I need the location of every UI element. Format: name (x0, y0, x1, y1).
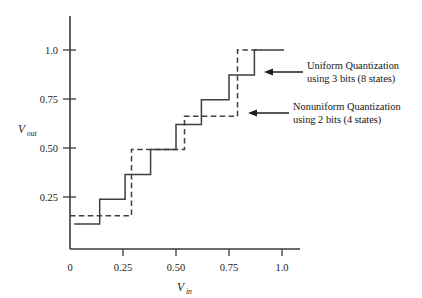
y-axis-label: V (18, 123, 27, 135)
y-axis-label-subscript: out (27, 129, 38, 138)
x-axis-ticks: 0 0.25 0.50 0.75 1.0 (67, 249, 288, 273)
nonuniform-annotation-line1: Nonuniform Quantization (293, 101, 401, 112)
scan-artifact (24, 3, 26, 12)
y-tick-label-0.50: 0.50 (40, 143, 58, 154)
uniform-quantization-annotation: Uniform Quantization using 3 bits (8 sta… (264, 60, 400, 85)
chart-svg: 1.0 0.75 0.50 0.25 0 0.25 0.50 0.75 1.0 … (0, 0, 422, 298)
x-axis-label: V (177, 281, 186, 293)
x-tick-label-0: 0 (67, 262, 72, 273)
quantization-transfer-chart: 1.0 0.75 0.50 0.25 0 0.25 0.50 0.75 1.0 … (0, 0, 422, 298)
x-tick-label-0.25: 0.25 (114, 262, 132, 273)
nonuniform-annotation-arrow-head (248, 109, 257, 116)
uniform-annotation-arrow-head (264, 68, 273, 75)
x-tick-label-0.50: 0.50 (167, 262, 185, 273)
y-tick-label-0.25: 0.25 (40, 192, 58, 203)
nonuniform-annotation-line2: using 2 bits (4 states) (293, 114, 381, 126)
x-axis-label-subscript: in (186, 287, 192, 296)
uniform-annotation-line2: using 3 bits (8 states) (307, 73, 395, 85)
x-tick-label-1.0: 1.0 (275, 262, 288, 273)
y-tick-label-0.75: 0.75 (40, 94, 58, 105)
x-tick-label-0.75: 0.75 (220, 262, 238, 273)
curves-group (70, 50, 284, 224)
uniform-annotation-line1: Uniform Quantization (307, 60, 400, 71)
y-tick-label-1.0: 1.0 (45, 45, 58, 56)
nonuniform-quantization-annotation: Nonuniform Quantization using 2 bits (4 … (248, 101, 401, 126)
uniform-quantization-curve (74, 50, 284, 224)
